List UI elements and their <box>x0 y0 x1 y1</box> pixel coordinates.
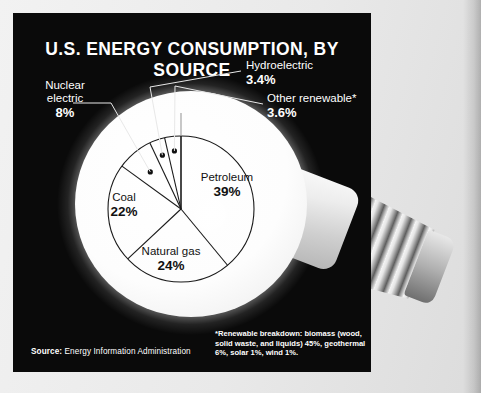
pie-label-natural-gas-value: 24% <box>121 258 221 274</box>
callout-other-renewable-name: Other renewable* <box>267 92 371 105</box>
infographic-panel-inner: U.S. ENERGY CONSUMPTION, BY SOURCE Petro… <box>13 13 371 372</box>
callout-other-renewable-value: 3.6% <box>267 106 371 121</box>
source-text: Energy Information Administration <box>62 347 191 356</box>
callout-hydroelectric: Hydroelectric 3.4% <box>246 59 371 87</box>
callout-other-renewable: Other renewable* 3.6% <box>267 92 371 120</box>
footer: Source: Energy Information Administratio… <box>13 330 371 364</box>
callout-nuclear-value: 8% <box>26 106 104 121</box>
pie-label-coal: Coal 22% <box>91 191 157 220</box>
pie-label-petroleum-name: Petroleum <box>181 171 273 184</box>
magazine-page-background: U.S. ENERGY CONSUMPTION, BY SOURCE Petro… <box>0 0 481 393</box>
callout-nuclear-electric: Nuclear electric 8% <box>26 79 104 120</box>
pie-label-petroleum: Petroleum 39% <box>181 171 273 200</box>
callout-hydroelectric-name: Hydroelectric <box>246 59 371 72</box>
source-line: Source: Energy Information Administratio… <box>31 347 191 356</box>
infographic-panel: U.S. ENERGY CONSUMPTION, BY SOURCE Petro… <box>13 13 371 372</box>
renewable-footnote: *Renewable breakdown: biomass (wood, sol… <box>215 329 371 358</box>
pie-label-petroleum-value: 39% <box>181 184 273 200</box>
page-edge-shadow <box>463 0 481 393</box>
source-label: Source: <box>31 347 62 356</box>
pie-label-coal-value: 22% <box>91 204 157 220</box>
pie-label-natural-gas-name: Natural gas <box>121 245 221 258</box>
pie-label-natural-gas: Natural gas 24% <box>121 245 221 274</box>
pie-label-coal-name: Coal <box>91 191 157 204</box>
callout-nuclear-line2: electric <box>26 92 104 105</box>
callout-hydroelectric-value: 3.4% <box>246 73 371 88</box>
callout-nuclear-line1: Nuclear <box>26 79 104 92</box>
